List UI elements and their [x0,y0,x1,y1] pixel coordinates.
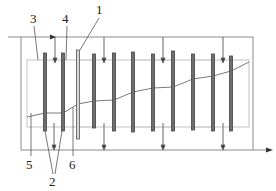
rod [44,53,47,131]
label-6: 6 [69,158,76,171]
rod [172,51,175,131]
inner-region [27,60,249,127]
rod [62,53,65,131]
rod [132,52,135,132]
label-1: 1 [96,3,103,16]
outer-channel [21,37,273,153]
outflow-arrow-icon [266,148,273,153]
leader-lines [31,18,99,174]
flow-diagram [0,0,276,191]
rod [113,53,116,131]
rod [93,54,96,128]
label-5: 5 [26,158,33,171]
label-3: 3 [30,12,37,25]
rods [44,50,233,139]
label-2: 2 [49,175,56,188]
rod [212,54,215,131]
top-inflow-line [8,35,253,40]
rod [192,54,195,130]
profile-line [27,62,249,117]
rod [152,54,155,131]
label-4: 4 [62,12,69,25]
rod [230,56,233,131]
rod [77,50,80,139]
